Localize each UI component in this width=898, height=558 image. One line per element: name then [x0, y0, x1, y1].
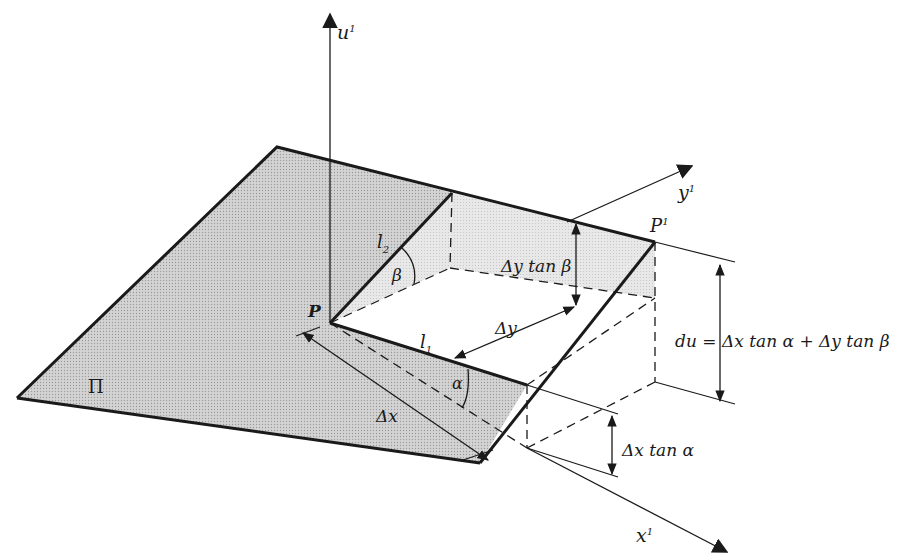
du-equation: du = Δx tan α + Δy tan β [675, 331, 890, 351]
alpha-label: α [452, 374, 463, 393]
x-axis-line [527, 448, 727, 552]
plane-pi-label: Π [88, 376, 104, 397]
differential-plane-diagram: u1 y1 x1 P P1 Π l2 l1 β α Δy tan β Δy Δx… [0, 0, 898, 558]
y-axis-label: y1 [677, 181, 695, 203]
point-p1-label: P1 [649, 215, 669, 236]
point-p-label: P [307, 301, 322, 321]
du-eq: = [702, 331, 716, 351]
du-lhs: du [675, 331, 697, 351]
du-rhs: Δx tan α + Δy tan β [721, 331, 890, 351]
plane-pi [17, 147, 655, 463]
x-axis-label: x1 [636, 524, 653, 546]
y-axis-line [567, 166, 692, 222]
dy-label: Δy [494, 318, 517, 338]
dy-tan-beta-label: Δy tan β [500, 256, 572, 276]
dx-label: Δx [375, 406, 398, 426]
beta-label: β [391, 265, 402, 285]
u-axis-label: u1 [337, 21, 356, 43]
dx-tan-alpha-label: Δx tan α [621, 440, 695, 460]
